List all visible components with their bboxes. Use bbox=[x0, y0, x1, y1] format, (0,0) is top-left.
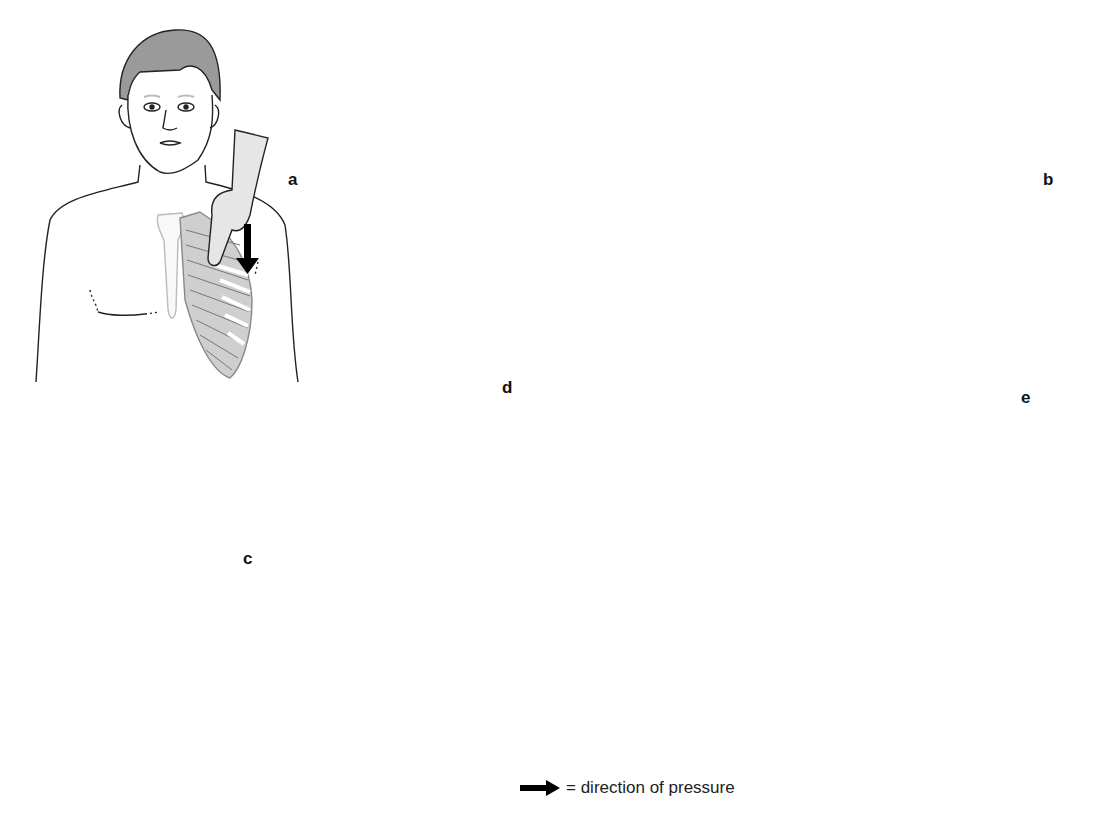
panel-label-b: b bbox=[1043, 170, 1053, 190]
panel-label-c: c bbox=[243, 549, 252, 569]
sternum-a bbox=[157, 213, 183, 318]
arrow-right-icon bbox=[520, 780, 560, 796]
legend: = direction of pressure bbox=[520, 778, 735, 798]
panel-label-e: e bbox=[1021, 388, 1030, 408]
legend-text: = direction of pressure bbox=[566, 778, 735, 798]
illustration-canvas bbox=[0, 0, 1112, 822]
hand-a bbox=[208, 130, 268, 265]
panel-label-a: a bbox=[288, 170, 297, 190]
panel-a-figure bbox=[36, 30, 298, 382]
hair-a bbox=[120, 30, 220, 100]
panel-label-d: d bbox=[502, 378, 512, 398]
face-a bbox=[128, 95, 213, 174]
